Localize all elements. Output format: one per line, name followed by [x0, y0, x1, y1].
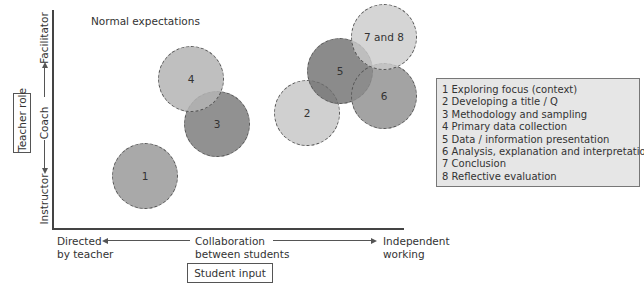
teacher-role-label: Teacher role — [16, 92, 28, 152]
stage-circle: 6 — [351, 63, 417, 129]
arrow-down-icon — [42, 168, 48, 174]
stage-circle-label: 4 — [188, 73, 195, 85]
stage-circle-label: 2 — [304, 107, 311, 119]
x-mid-line1: Collaboration — [195, 235, 289, 248]
x-arrow-right-line — [273, 240, 371, 241]
legend-item: 2 Developing a title / Q — [442, 96, 639, 108]
student-input-label: Student input — [194, 267, 266, 279]
legend-item: 7 Conclusion — [442, 158, 639, 170]
y-axis-mid-label: Coach — [38, 103, 50, 143]
x-axis-mid-label: Collaboration between students — [195, 235, 289, 260]
y-arrow-down-line — [44, 140, 45, 169]
stage-circle: 7 and 8 — [351, 4, 417, 70]
legend-item: 3 Methodology and sampling — [442, 109, 639, 121]
legend-item: 8 Reflective evaluation — [442, 171, 639, 183]
x-high-line2: working — [383, 248, 450, 261]
x-low-line2: by teacher — [57, 248, 113, 261]
y-arrow-up-line — [44, 68, 45, 97]
x-mid-line2: between students — [195, 248, 289, 261]
legend: 1 Exploring focus (context) 2 Developing… — [436, 78, 640, 187]
x-axis-high-label: Independent working — [383, 235, 450, 260]
x-arrow-left-line — [108, 240, 190, 241]
legend-item: 4 Primary data collection — [442, 121, 639, 133]
y-axis-low-label: Instructor — [38, 173, 50, 225]
student-input-box: Student input — [187, 263, 273, 283]
x-high-line1: Independent — [383, 235, 450, 248]
legend-item: 1 Exploring focus (context) — [442, 84, 639, 96]
stage-circle-label: 6 — [381, 90, 388, 102]
y-axis-line — [52, 10, 54, 229]
legend-item: 5 Data / information presentation — [442, 134, 639, 146]
teacher-role-box: Teacher role — [13, 93, 31, 153]
stage-circle-label: 3 — [214, 118, 221, 130]
stage-circle-label: 1 — [142, 170, 149, 182]
arrow-up-icon — [42, 62, 48, 68]
stage-circle: 1 — [112, 143, 178, 209]
stage-circle: 4 — [158, 46, 224, 112]
stage-circle-label: 5 — [337, 65, 344, 77]
arrow-right-icon — [371, 238, 377, 244]
x-axis-line — [52, 228, 404, 230]
y-axis-high-label: Facilitator — [38, 7, 50, 69]
legend-item: 6 Analysis, explanation and interpretati… — [442, 146, 639, 158]
stage-circle-label: 7 and 8 — [364, 31, 404, 43]
diagram-title: Normal expectations — [91, 15, 200, 27]
